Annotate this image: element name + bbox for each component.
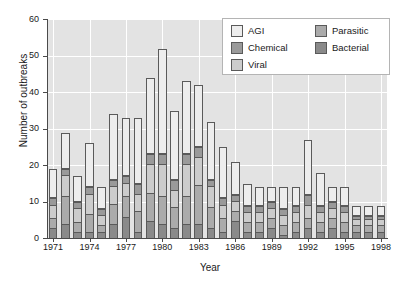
legend-label-parasitic: Parasitic [332, 25, 368, 37]
x-tick-label-1971: 1971 [33, 242, 73, 252]
bar-segment-agi-1981 [170, 111, 179, 180]
bar-segment-parasitic-1977 [122, 196, 131, 218]
bar-1985 [219, 143, 228, 238]
bar-segment-agi-1971 [49, 169, 58, 198]
x-tick-mark-1980 [162, 238, 163, 242]
bar-segment-viral-1981 [170, 190, 179, 208]
bar-segment-agi-1978 [134, 118, 143, 184]
legend-label-viral: Viral [248, 59, 267, 71]
bar-segment-parasitic-1976 [109, 204, 118, 226]
y-tick-mark-10 [43, 202, 47, 203]
x-axis-title: Year [0, 262, 420, 273]
bar-1989 [267, 183, 276, 238]
x-tick-label-1974: 1974 [70, 242, 110, 252]
y-tick-label-60: 60 [15, 15, 39, 24]
bar-segment-parasitic-1978 [134, 211, 143, 233]
legend-swatch-bacterial [315, 42, 327, 54]
y-tick-mark-60 [43, 19, 47, 20]
bar-1988 [255, 183, 264, 238]
legend-item-agi: AGI [231, 24, 315, 37]
x-tick-mark-1992 [308, 238, 309, 242]
bar-segment-viral-1992 [304, 205, 313, 220]
bar-segment-agi-1977 [122, 118, 131, 176]
y-tick-mark-0 [43, 238, 47, 239]
bar-segment-viral-1972 [61, 175, 70, 197]
bar-segment-agi-1976 [109, 114, 118, 180]
bar-segment-bacterial-1984 [207, 228, 216, 238]
bar-1984 [207, 118, 216, 238]
y-axis-title: Number of outbreaks [18, 31, 29, 171]
bar-segment-parasitic-1985 [219, 218, 228, 233]
legend-column-left: AGI Chemical Viral [231, 24, 315, 74]
y-tick-mark-20 [43, 165, 47, 166]
x-tick-mark-1995 [345, 238, 346, 242]
bar-segment-agi-1979 [146, 78, 155, 155]
bar-segment-bacterial-1976 [109, 224, 118, 238]
x-tick-mark-1989 [272, 238, 273, 242]
bar-1977 [122, 114, 131, 238]
bar-segment-agi-1985 [219, 147, 228, 198]
x-tick-label-1983: 1983 [179, 242, 219, 252]
bar-segment-viral-1973 [73, 208, 82, 223]
bar-segment-parasitic-1984 [207, 207, 216, 229]
bar-segment-agi-1986 [231, 162, 240, 195]
y-axis-line [47, 19, 48, 239]
bar-segment-bacterial-1989 [267, 228, 276, 238]
bar-segment-viral-1976 [109, 186, 118, 204]
bar-segment-agi-1988 [255, 187, 264, 205]
bar-segment-bacterial-1982 [182, 224, 191, 238]
bar-segment-agi-1992 [304, 140, 313, 195]
bar-segment-bacterial-1983 [194, 224, 203, 238]
bar-1990 [279, 183, 288, 238]
bar-segment-agi-1983 [194, 85, 203, 147]
chart-figure: 0102030405060 19711974197719801983198619… [0, 0, 420, 281]
bar-segment-bacterial-1972 [61, 224, 70, 238]
bar-1975 [97, 183, 106, 238]
bar-segment-agi-1993 [316, 173, 325, 206]
x-tick-mark-1977 [126, 238, 127, 242]
x-axis-line [47, 238, 388, 239]
legend-swatch-chemical [231, 42, 243, 54]
x-tick-label-1977: 1977 [106, 242, 146, 252]
bar-1987 [243, 180, 252, 238]
bar-segment-viral-1971 [49, 205, 58, 220]
bar-1996 [352, 202, 361, 239]
x-tick-mark-1974 [90, 238, 91, 242]
x-tick-label-1992: 1992 [288, 242, 328, 252]
bar-segment-parasitic-1979 [146, 193, 155, 222]
bar-segment-bacterial-1980 [158, 224, 167, 238]
bar-segment-viral-1977 [122, 183, 131, 198]
bar-segment-parasitic-1983 [194, 185, 203, 225]
bar-segment-viral-1982 [182, 164, 191, 197]
bar-1980 [158, 45, 167, 238]
y-tick-mark-50 [43, 56, 47, 57]
bar-segment-agi-1987 [243, 184, 252, 206]
bar-1973 [73, 172, 82, 238]
bar-1978 [134, 114, 143, 238]
bar-1995 [340, 183, 349, 238]
x-tick-label-1989: 1989 [252, 242, 292, 252]
bar-segment-viral-1985 [219, 205, 228, 220]
bar-segment-agi-1991 [292, 187, 301, 205]
bar-segment-agi-1973 [73, 176, 82, 202]
bar-segment-bacterial-1979 [146, 221, 155, 238]
bar-segment-agi-1972 [61, 133, 70, 170]
bar-1993 [316, 169, 325, 238]
legend-column-right: Parasitic Bacterial [315, 24, 369, 74]
x-tick-mark-1998 [381, 238, 382, 242]
bar-segment-parasitic-1972 [61, 196, 70, 225]
bar-1974 [85, 139, 94, 238]
bar-segment-bacterial-1992 [304, 228, 313, 238]
legend-item-parasitic: Parasitic [315, 24, 369, 37]
bar-segment-agi-1982 [182, 81, 191, 154]
bar-segment-agi-1990 [279, 187, 288, 209]
y-tick-label-10: 10 [15, 197, 39, 206]
bar-1981 [170, 107, 179, 238]
bar-1972 [61, 129, 70, 239]
bar-1991 [292, 183, 301, 238]
x-tick-mark-1983 [199, 238, 200, 242]
bar-1976 [109, 110, 118, 238]
bar-segment-bacterial-1981 [170, 228, 179, 238]
bar-segment-agi-1989 [267, 187, 276, 202]
bar-segment-bacterial-1977 [122, 217, 131, 238]
